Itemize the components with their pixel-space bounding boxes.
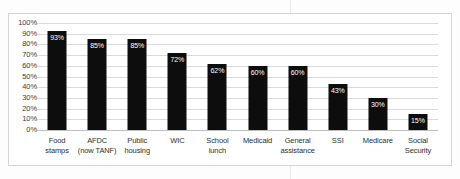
bar-slot: 60% — [238, 23, 278, 130]
x-category-label-line: General — [278, 136, 318, 146]
x-category-label: Generalassistance — [278, 136, 318, 156]
y-axis-tick-labels: 100%90%80%70%60%50%40%30%20%10%0% — [17, 23, 37, 130]
x-category-label-line: Social — [398, 136, 438, 146]
x-category-label-line: assistance — [278, 146, 318, 156]
bar-slot: 15% — [398, 23, 438, 130]
chart-frame: 100%90%80%70%60%50%40%30%20%10%0% 93%85%… — [8, 13, 452, 166]
y-tick-label-30: 30% — [17, 94, 37, 102]
x-category-label: SSI — [318, 136, 358, 146]
bar[interactable]: 72% — [168, 53, 187, 130]
y-tick-label-70: 70% — [17, 51, 37, 59]
bar-value-label: 15% — [408, 117, 427, 124]
bar[interactable]: 30% — [368, 98, 387, 130]
x-category-label: Foodstamps — [37, 136, 77, 156]
bar-slot: 43% — [318, 23, 358, 130]
bar[interactable]: 85% — [88, 39, 107, 130]
plot-area: 93%85%85%72%62%60%60%43%30%15% — [37, 23, 438, 130]
x-category-label-line: Security — [398, 146, 438, 156]
bar-value-label: 43% — [328, 87, 347, 94]
bar-slot: 30% — [358, 23, 398, 130]
bar-slot: 85% — [77, 23, 117, 130]
y-tick-label-40: 40% — [17, 83, 37, 91]
bar[interactable]: 60% — [248, 66, 267, 130]
bar-value-label: 60% — [248, 69, 267, 76]
x-category-label-line: Medicaid — [238, 136, 278, 146]
bar-slot: 62% — [197, 23, 237, 130]
bar-slot: 93% — [37, 23, 77, 130]
bar-slot: 85% — [117, 23, 157, 130]
x-category-label-line: WIC — [157, 136, 197, 146]
bar[interactable]: 62% — [208, 64, 227, 130]
bar[interactable]: 60% — [288, 66, 307, 130]
x-axis-category-labels: FoodstampsAFDC(now TANF)PublichousingWIC… — [37, 136, 438, 164]
x-category-label-line: SSI — [318, 136, 358, 146]
x-category-label-line: Food — [37, 136, 77, 146]
bar[interactable]: 93% — [48, 31, 67, 131]
bar-value-label: 62% — [208, 67, 227, 74]
y-tick-label-60: 60% — [17, 62, 37, 70]
bar-slot: 72% — [157, 23, 197, 130]
x-category-label: WIC — [157, 136, 197, 146]
x-category-label-line: lunch — [197, 146, 237, 156]
bar-value-label: 30% — [368, 101, 387, 108]
bar-value-label: 93% — [48, 34, 67, 41]
x-category-label-line: housing — [117, 146, 157, 156]
x-category-label-line: Public — [117, 136, 157, 146]
bar[interactable]: 85% — [128, 39, 147, 130]
x-category-label: Medicare — [358, 136, 398, 146]
x-category-label: SocialSecurity — [398, 136, 438, 156]
y-tick-label-0: 0% — [17, 126, 37, 134]
y-tick-label-10: 10% — [17, 116, 37, 124]
x-category-label: Schoollunch — [197, 136, 237, 156]
y-tick-label-50: 50% — [17, 73, 37, 81]
bar-value-label: 85% — [128, 42, 147, 49]
x-category-label-line: stamps — [37, 146, 77, 156]
x-category-label-line: School — [197, 136, 237, 146]
x-category-label: Medicaid — [238, 136, 278, 146]
bar-value-label: 85% — [88, 42, 107, 49]
x-category-label-line: Medicare — [358, 136, 398, 146]
bar[interactable]: 43% — [328, 84, 347, 130]
bar[interactable]: 15% — [408, 114, 427, 130]
y-tick-label-80: 80% — [17, 41, 37, 49]
x-category-label-line: (now TANF) — [77, 146, 117, 156]
y-tick-label-100: 100% — [17, 19, 37, 27]
x-category-label-line: AFDC — [77, 136, 117, 146]
y-tick-label-90: 90% — [17, 30, 37, 38]
bar-series: 93%85%85%72%62%60%60%43%30%15% — [37, 23, 438, 130]
y-tick-label-20: 20% — [17, 105, 37, 113]
bar-value-label: 72% — [168, 56, 187, 63]
bar-slot: 60% — [278, 23, 318, 130]
bar-value-label: 60% — [288, 69, 307, 76]
x-category-label: Publichousing — [117, 136, 157, 156]
x-category-label: AFDC(now TANF) — [77, 136, 117, 156]
gridline-0 — [37, 130, 438, 131]
